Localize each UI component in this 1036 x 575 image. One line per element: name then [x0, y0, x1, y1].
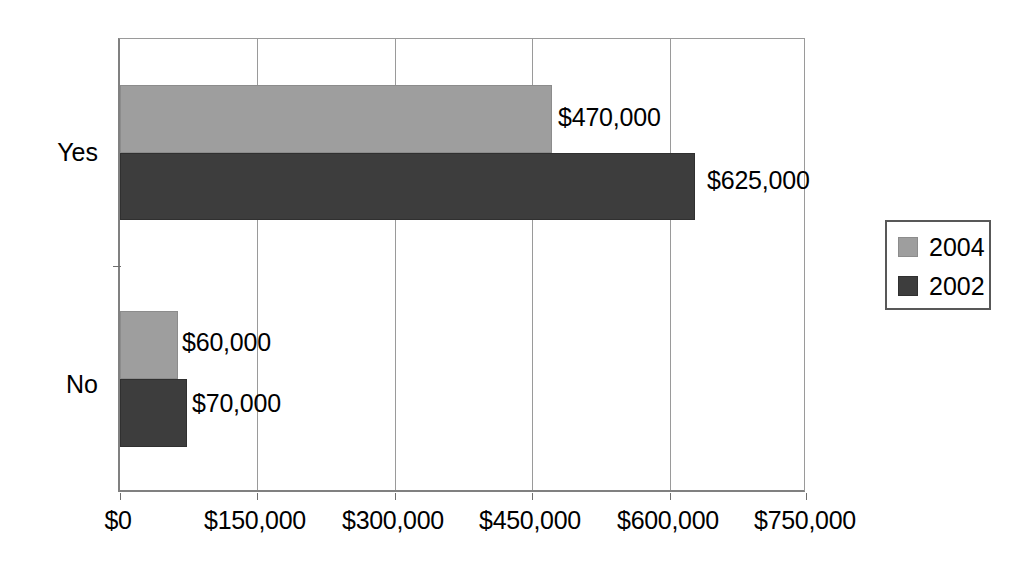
legend: 2004 2002 [885, 220, 991, 310]
legend-item-2004: 2004 [898, 235, 985, 259]
value-label-yes-2002: $625,000 [707, 168, 810, 193]
value-label-yes-2004: $470,000 [552, 98, 667, 139]
xtick-label-300000: $300,000 [318, 508, 468, 533]
xtick-label-450000: $450,000 [455, 508, 605, 533]
xtick-label-750000: $750,000 [730, 508, 880, 533]
xtick-label-600000: $600,000 [593, 508, 743, 533]
xtick-150000 [257, 493, 258, 500]
legend-label-2004: 2004 [929, 235, 985, 260]
plot-area [118, 38, 805, 492]
category-label-yes: Yes [0, 140, 98, 165]
xtick-label-0: $0 [68, 508, 168, 533]
bar-no-2002 [120, 379, 187, 447]
legend-swatch-icon-2004 [898, 237, 918, 257]
category-axis-tick [113, 266, 121, 267]
legend-label-2002: 2002 [929, 274, 985, 299]
category-label-no: No [0, 372, 98, 397]
xtick-450000 [532, 493, 533, 500]
gridline-600000 [670, 39, 671, 490]
xtick-0 [120, 493, 121, 500]
xtick-300000 [395, 493, 396, 500]
bar-yes-2004 [120, 85, 552, 153]
legend-item-2002: 2002 [898, 274, 985, 298]
bar-no-2004 [120, 311, 178, 379]
xtick-label-150000: $150,000 [180, 508, 330, 533]
bar-chart: Yes No $470,000 $625,000 $60,000 $70,000… [0, 0, 1036, 575]
xtick-750000 [806, 493, 807, 500]
xtick-600000 [670, 493, 671, 500]
value-label-no-2002: $70,000 [192, 391, 281, 416]
legend-swatch-icon-2002 [898, 276, 918, 296]
value-label-no-2004: $60,000 [182, 330, 271, 355]
bar-yes-2002 [120, 153, 695, 220]
